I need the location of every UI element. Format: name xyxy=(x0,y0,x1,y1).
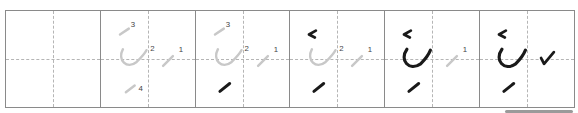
stroke-2-ghost xyxy=(311,49,336,65)
stroke-number-2: 2 xyxy=(150,44,154,53)
practice-cell-step-2: 3 2 1 xyxy=(196,11,291,107)
stroke-2-ink xyxy=(499,49,525,66)
stroke-3-ghost xyxy=(120,29,129,35)
stroke-1-ghost xyxy=(353,56,363,66)
stroke-3-ink xyxy=(309,31,316,38)
stroke-1-ghost xyxy=(447,56,457,66)
stroke-diagram: 1 xyxy=(385,11,479,107)
stroke-2-ink xyxy=(404,49,430,66)
horizontal-guide-line xyxy=(6,59,100,60)
stroke-1-ink xyxy=(541,52,554,64)
stroke-diagram xyxy=(480,11,574,107)
stroke-2-ghost xyxy=(216,49,241,65)
stroke-number-1: 1 xyxy=(179,45,183,54)
stroke-4-ghost xyxy=(126,85,135,92)
stroke-diagram: 3 2 1 xyxy=(196,11,290,107)
practice-grid: 3 2 1 4 3 2 1 2 1 xyxy=(5,10,575,108)
stroke-number-1: 1 xyxy=(273,45,277,54)
practice-cell-step-4: 1 xyxy=(385,11,480,107)
horizontal-scrollbar[interactable] xyxy=(505,110,573,113)
stroke-number-2: 2 xyxy=(244,44,248,53)
stroke-3-ink xyxy=(404,31,411,38)
practice-cell-complete xyxy=(480,11,574,107)
stroke-number-1: 1 xyxy=(463,45,467,54)
stroke-2-ghost xyxy=(121,49,146,65)
stroke-3-ghost xyxy=(215,29,224,35)
stroke-number-3: 3 xyxy=(225,20,230,29)
stroke-number-3: 3 xyxy=(131,20,136,29)
stroke-4-ink xyxy=(504,83,514,91)
stroke-number-2: 2 xyxy=(340,44,344,53)
stroke-3-ink xyxy=(499,31,506,38)
practice-cell-all-ghost: 3 2 1 4 xyxy=(101,11,196,107)
stroke-4-ink xyxy=(314,83,324,91)
stroke-4-ink xyxy=(409,83,419,91)
stroke-diagram: 2 1 xyxy=(290,11,384,107)
stroke-1-ghost xyxy=(163,56,173,66)
stroke-number-4: 4 xyxy=(138,84,143,93)
stroke-1-ghost xyxy=(258,56,268,66)
practice-cell-step-3: 2 1 xyxy=(290,11,385,107)
stroke-diagram: 3 2 1 4 xyxy=(101,11,195,107)
practice-cell-empty xyxy=(6,11,101,107)
stroke-4-ink xyxy=(220,83,230,91)
stroke-number-1: 1 xyxy=(368,45,372,54)
